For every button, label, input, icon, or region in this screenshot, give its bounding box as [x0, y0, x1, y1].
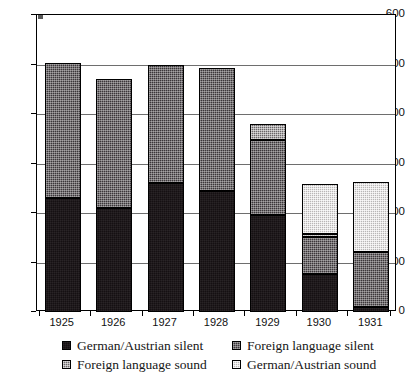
- bar-segment-1929-fl-silent: [250, 140, 286, 215]
- legend-item-fl-silent: Foreign language silent: [232, 336, 392, 355]
- x-tick-label-1927: 1927: [152, 316, 176, 328]
- plot-corner-artifact: [38, 15, 43, 19]
- y-tick-mark-0: [31, 311, 36, 312]
- x-tick-mark-1925: [39, 311, 40, 316]
- bar-segment-1930-ga-sound: [302, 184, 338, 234]
- legend-item-fl-sound: Foreign language sound: [62, 355, 222, 374]
- legend-label-ga-sound: German/Austrian sound: [247, 358, 376, 372]
- x-tick-mark-1927: [142, 311, 143, 316]
- bar-segment-1925-ga-silent: [45, 198, 81, 312]
- legend-swatch-fl-silent: [232, 341, 241, 350]
- x-tick-label-1925: 1925: [49, 316, 73, 328]
- bar-1928: [199, 15, 235, 312]
- x-tick-mark-end: [390, 311, 391, 316]
- legend-swatch-ga-sound: [232, 360, 241, 369]
- bar-segment-1930-fl-silent: [302, 237, 338, 274]
- x-tick-label-1929: 1929: [255, 316, 279, 328]
- legend-swatch-ga-silent: [62, 341, 71, 350]
- bar-segment-1929-fl-sound: [250, 124, 286, 140]
- x-tick-label-1928: 1928: [204, 316, 228, 328]
- x-tick-mark-1928: [193, 311, 194, 316]
- x-tick-mark-1931: [347, 311, 348, 316]
- x-tick-label-1931: 1931: [358, 316, 382, 328]
- bar-segment-1928-ga-silent: [199, 191, 235, 312]
- bar-1925: [45, 15, 81, 312]
- bar-1930: [302, 15, 338, 312]
- legend-label-fl-silent: Foreign language silent: [247, 339, 374, 353]
- bar-segment-1925-fl-silent: [45, 63, 81, 198]
- bar-segment-1926-ga-silent: [96, 208, 132, 312]
- bar-1927: [148, 15, 184, 312]
- legend-label-fl-sound: Foreign language sound: [77, 358, 207, 372]
- x-tick-mark-1930: [296, 311, 297, 316]
- legend-item-ga-sound: German/Austrian sound: [232, 355, 392, 374]
- bar-segment-1928-fl-silent: [199, 68, 235, 191]
- bar-1931: [353, 15, 389, 312]
- x-tick-label-1926: 1926: [101, 316, 125, 328]
- legend-item-ga-silent: German/Austrian silent: [62, 336, 222, 355]
- stacked-bar-chart: 0100200300400500600 19251926192719281929…: [0, 0, 405, 378]
- legend-label-ga-silent: German/Austrian silent: [77, 339, 203, 353]
- bar-segment-1931-ga-sound: [353, 182, 389, 252]
- bar-segment-1931-fl-silent: [353, 252, 389, 307]
- x-tick-mark-1926: [90, 311, 91, 316]
- bar-segment-1926-fl-silent: [96, 79, 132, 207]
- bar-segment-1930-ga-silent: [302, 274, 338, 312]
- bar-segment-1930-fl-sound: [302, 234, 338, 236]
- plot-area: [36, 14, 396, 311]
- bar-1929: [250, 15, 286, 312]
- x-tick-label-1930: 1930: [307, 316, 331, 328]
- bar-segment-1927-ga-silent: [148, 183, 184, 312]
- bar-1926: [96, 15, 132, 312]
- chart-legend: German/Austrian silentForeign language s…: [62, 336, 392, 374]
- legend-swatch-fl-sound: [62, 360, 71, 369]
- x-tick-mark-1929: [244, 311, 245, 316]
- bar-segment-1927-fl-silent: [148, 65, 184, 183]
- bar-segment-1929-ga-silent: [250, 215, 286, 312]
- bar-segment-1931-ga-silent: [353, 307, 389, 312]
